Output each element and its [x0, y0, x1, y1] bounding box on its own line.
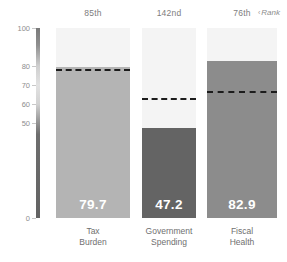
y-axis-tick-70: 70 [0, 82, 30, 90]
world-average-line-government-spending [142, 98, 196, 100]
category-label-government-spending: Government Spending [136, 226, 202, 247]
y-axis-tick-80: 80 [0, 63, 30, 71]
bar-value-tax-burden: 79.7 [56, 197, 130, 212]
bar-fiscal-health: 82.9 [207, 61, 277, 219]
rank-caret-icon: ‹ [258, 9, 260, 16]
column-track-government-spending: 47.2 [142, 28, 196, 218]
y-axis-tick-50: 50 [0, 120, 30, 128]
y-axis-gradient-bar [36, 28, 40, 218]
rank-label-tax-burden: 85th [56, 8, 130, 18]
y-axis-tick-0: 0 [0, 215, 30, 223]
world-average-line-fiscal-health [207, 91, 277, 93]
column-track-fiscal-health: 82.9 [207, 28, 277, 218]
y-axis-tickmark-0 [32, 218, 36, 219]
rank-legend-text: Rank [261, 8, 280, 17]
bar-government-spending: 47.2 [142, 128, 196, 218]
bar-chart: 85th 142nd 76th ‹Rank 100 80 70 60 50 0 … [0, 0, 287, 262]
bar-value-government-spending: 47.2 [142, 197, 196, 212]
rank-legend: ‹Rank [258, 8, 280, 17]
bar-value-fiscal-health: 82.9 [207, 197, 277, 212]
y-axis-tick-60: 60 [0, 101, 30, 109]
y-axis-tick-100: 100 [0, 25, 30, 33]
rank-label-government-spending: 142nd [139, 8, 199, 18]
category-label-fiscal-health: Fiscal Health [207, 226, 277, 247]
column-track-tax-burden: 79.7 [56, 28, 130, 218]
bar-tax-burden: 79.7 [56, 67, 130, 218]
world-average-line-tax-burden [56, 69, 130, 71]
category-label-tax-burden: Tax Burden [56, 226, 130, 247]
